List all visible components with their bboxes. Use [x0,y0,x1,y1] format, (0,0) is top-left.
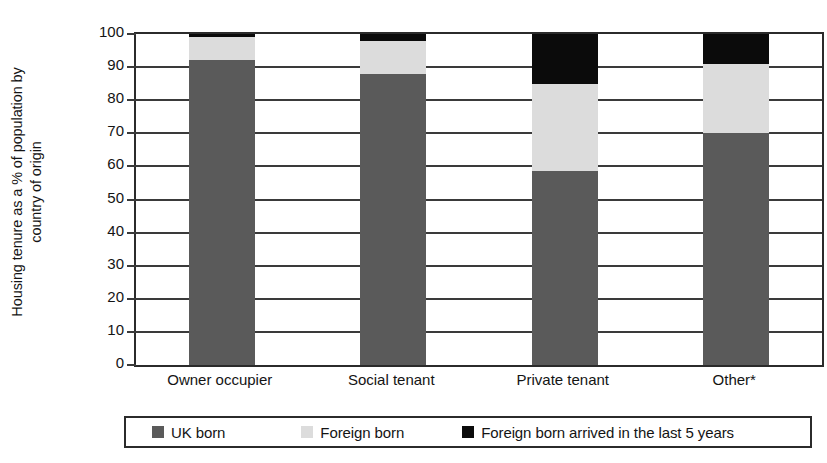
bar-segment [532,34,598,84]
x-axis-label-2: Private tenant [463,371,663,388]
y-axis-title-line1: Housing tenure as a % of population by [9,67,25,316]
y-axis-tick-label: 0 [90,354,124,371]
legend-item: Foreign born arrived in the last 5 years [462,424,734,441]
y-axis-title-line2: country of origin [27,12,46,372]
y-axis-tick-label: 70 [90,122,124,139]
y-axis-tick [127,364,136,366]
bar-segment [360,74,426,365]
bar-private-tenant [532,34,598,365]
plot-area [134,32,824,367]
bar-segment [703,34,769,64]
stacked-bar-chart: Housing tenure as a % of population by c… [0,0,827,463]
legend-swatch-icon [462,426,474,438]
y-axis-tick [127,165,136,167]
bar-social-tenant [360,34,426,365]
y-axis-tick [127,298,136,300]
y-axis-tick-label: 100 [90,23,124,40]
legend-item: Foreign born [301,424,404,441]
bar-segment [360,41,426,74]
bar-segment [703,64,769,134]
y-axis-title: Housing tenure as a % of population by c… [0,0,58,380]
y-axis-tick [127,99,136,101]
y-axis-tick [127,199,136,201]
y-axis-tick [127,132,136,134]
chart-legend: UK bornForeign bornForeign born arrived … [124,416,812,448]
y-axis-tick-label: 80 [90,89,124,106]
bar-owner-occupier [189,34,255,365]
legend-label: UK born [171,424,225,441]
legend-item: UK born [152,424,225,441]
y-axis-tick-label: 10 [90,321,124,338]
y-axis-tick-label: 50 [90,189,124,206]
bar-segment [532,171,598,365]
bar-segment [360,34,426,41]
legend-swatch-icon [152,426,164,438]
y-axis-tick [127,265,136,267]
legend-label: Foreign born [320,424,404,441]
y-axis-tick [127,331,136,333]
bar-segment [532,84,598,172]
y-axis-tick-labels: 1009080706050403020100 [88,32,124,363]
y-axis-tick [127,232,136,234]
x-axis-category-labels: Owner occupierSocial tenantPrivate tenan… [134,371,824,397]
x-axis-label-0: Owner occupier [120,371,320,388]
y-axis-tick-label: 40 [90,222,124,239]
legend-label: Foreign born arrived in the last 5 years [481,424,734,441]
y-axis-tick-label: 60 [90,155,124,172]
bar-segment [189,37,255,60]
bar-other [703,34,769,365]
y-axis-tick [127,33,136,35]
y-axis-tick-label: 30 [90,255,124,272]
y-axis-tick [127,66,136,68]
bar-segment [703,133,769,365]
x-axis-label-1: Social tenant [291,371,491,388]
y-axis-tick-label: 90 [90,56,124,73]
x-axis-label-3: Other* [634,371,827,388]
y-axis-tick-label: 20 [90,288,124,305]
bar-segment [189,60,255,365]
legend-swatch-icon [301,426,313,438]
